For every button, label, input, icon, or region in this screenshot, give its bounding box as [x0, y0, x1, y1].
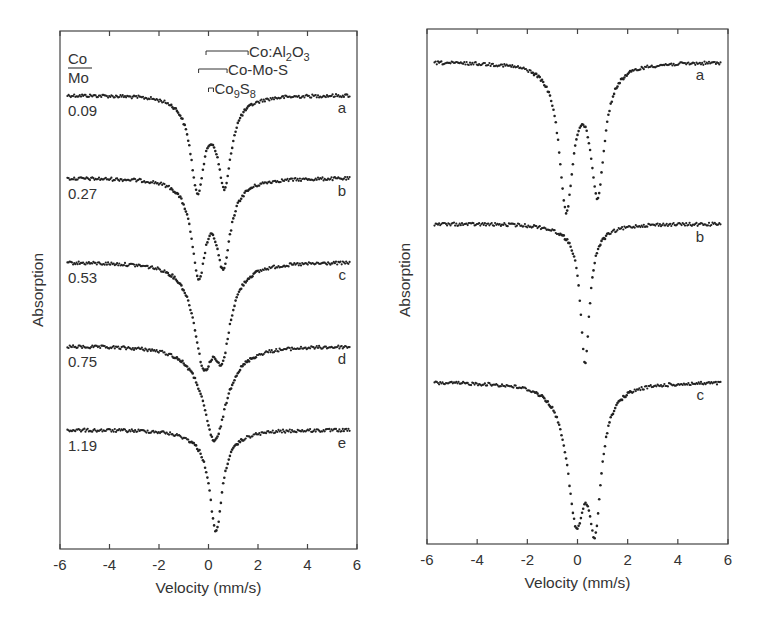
y-axis-label: Absorption — [396, 243, 413, 317]
x-tick-label: 2 — [623, 551, 631, 568]
x-tick-label: -4 — [103, 556, 116, 573]
x-tick-label: 2 — [254, 556, 262, 573]
site-label: Co9S8 — [214, 80, 255, 100]
co-mo-ratio-e: 1.19 — [68, 437, 97, 454]
ratio-numerator: Co — [68, 50, 87, 67]
bracket-marker — [209, 88, 214, 92]
x-tick-label: -2 — [152, 556, 165, 573]
co-mo-ratio-c: 0.53 — [68, 269, 97, 286]
x-tick-label: 6 — [724, 551, 732, 568]
right-spectra-panel: -6-4-20246Velocity (mm/s)Absorptionabc — [396, 29, 732, 591]
x-tick-label: 0 — [204, 556, 212, 573]
spectrum-label-a: a — [696, 66, 705, 83]
x-tick-label: -4 — [470, 551, 483, 568]
ratio-denominator: Mo — [68, 69, 89, 86]
x-tick-label: -2 — [521, 551, 534, 568]
spectrum-label-a: a — [338, 99, 347, 116]
x-tick-label: 4 — [303, 556, 311, 573]
site-label: Co:Al2O3 — [249, 43, 310, 63]
spectrum-b — [433, 222, 721, 365]
x-tick-label: 4 — [674, 551, 682, 568]
mossbauer-figure: -6-4-20246Velocity (mm/s)Absorptiona0.09… — [0, 0, 766, 626]
spectrum-d — [66, 344, 350, 442]
spectrum-c — [433, 381, 721, 540]
x-tick-label: 6 — [353, 556, 361, 573]
co-mo-ratio-a: 0.09 — [68, 102, 97, 119]
y-axis-label: Absorption — [29, 253, 46, 327]
x-axis-label: Velocity (mm/s) — [525, 574, 631, 591]
site-label: Co-Mo-S — [228, 61, 288, 78]
spectrum-label-e: e — [338, 434, 346, 451]
co-mo-ratio-d: 0.75 — [68, 353, 97, 370]
bracket-marker — [199, 69, 227, 73]
x-tick-label: 0 — [573, 551, 581, 568]
bracket-marker — [206, 51, 248, 55]
site-annotation-0: Co:Al2O3 — [206, 43, 310, 63]
plot-frame — [427, 29, 728, 544]
left-spectra-panel: -6-4-20246Velocity (mm/s)Absorptiona0.09… — [29, 31, 361, 596]
spectrum-label-b: b — [338, 182, 346, 199]
site-annotation-2: Co9S8 — [209, 80, 256, 100]
x-axis-label: Velocity (mm/s) — [156, 579, 262, 596]
x-tick-label: -6 — [53, 556, 66, 573]
x-tick-label: -6 — [420, 551, 433, 568]
spectrum-label-d: d — [338, 350, 346, 367]
spectrum-c — [66, 260, 350, 371]
plot-frame — [60, 31, 357, 549]
spectrum-e — [66, 428, 350, 533]
spectrum-label-b: b — [696, 228, 704, 245]
site-annotation-1: Co-Mo-S — [199, 61, 288, 78]
spectrum-label-c: c — [339, 266, 347, 283]
spectrum-a — [433, 60, 721, 214]
spectrum-label-c: c — [697, 386, 705, 403]
co-mo-ratio-b: 0.27 — [68, 185, 97, 202]
